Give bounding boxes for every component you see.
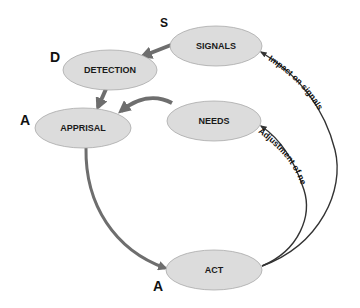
node-needs: NEEDS bbox=[167, 101, 261, 141]
letter-d: D bbox=[50, 49, 60, 65]
arrow-signals-to-detection bbox=[143, 45, 171, 56]
letter-s: S bbox=[160, 16, 168, 30]
node-apprisal-label: APPRISAL bbox=[60, 123, 106, 133]
node-signals: SIGNALS bbox=[170, 26, 262, 66]
letter-a-act: A bbox=[153, 278, 163, 294]
node-signals-label: SIGNALS bbox=[196, 41, 236, 51]
arrow-needs-to-apprisal bbox=[121, 98, 172, 111]
label-adjustment-of-needs: Adjustment of needs bbox=[0, 0, 309, 186]
node-detection: DETECTION bbox=[63, 50, 157, 90]
arrow-detection-to-apprisal bbox=[98, 89, 106, 107]
node-needs-label: NEEDS bbox=[198, 116, 229, 126]
label-impact-on-signals: Impact on signals bbox=[267, 53, 325, 112]
node-act: ACT bbox=[166, 250, 262, 290]
arrow-apprisal-to-act bbox=[86, 148, 165, 268]
diagram-canvas: SIGNALS DETECTION APPRISAL NEEDS ACT S D… bbox=[0, 0, 360, 308]
node-apprisal: APPRISAL bbox=[35, 108, 131, 148]
node-act-label: ACT bbox=[205, 265, 224, 275]
letter-a-apprisal: A bbox=[20, 112, 30, 128]
node-detection-label: DETECTION bbox=[84, 65, 136, 75]
